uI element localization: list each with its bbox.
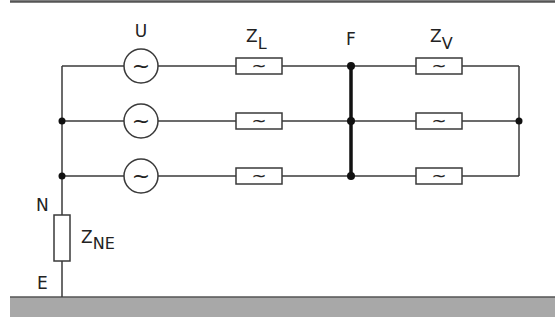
junction-dot: [516, 118, 523, 125]
line-impedance-3: ~: [236, 165, 282, 186]
load-impedance-label: ZV: [430, 26, 453, 53]
junction-dot: [347, 117, 355, 125]
earth-ground-plane: [10, 297, 555, 317]
ac-impedance-icon: ~: [431, 165, 446, 186]
voltage-source-3: ~: [124, 159, 158, 193]
ac-source-icon: ~: [132, 53, 150, 78]
three-phase-fault-circuit-diagram: ~ ~ ~ ~ ~ ~ ~ ~ ~ U ZL: [0, 0, 555, 317]
fault-point-label: F: [346, 29, 356, 49]
load-impedance-1: ~: [416, 55, 462, 76]
ac-impedance-icon: ~: [251, 110, 266, 131]
line-impedance-1: ~: [236, 55, 282, 76]
neutral-earth-impedance-label: ZNE: [81, 227, 115, 253]
line-impedance-2: ~: [236, 110, 282, 131]
junction-dot: [347, 172, 355, 180]
ac-impedance-icon: ~: [431, 55, 446, 76]
earth-label: E: [37, 273, 48, 293]
junction-dot: [59, 173, 66, 180]
junction-dot: [59, 118, 66, 125]
neutral-earth-impedance: [54, 215, 70, 261]
ac-source-icon: ~: [132, 163, 150, 188]
ac-impedance-icon: ~: [251, 165, 266, 186]
source-label: U: [135, 21, 147, 41]
voltage-source-2: ~: [124, 104, 158, 138]
junction-dot: [347, 62, 355, 70]
ac-impedance-icon: ~: [251, 55, 266, 76]
voltage-source-1: ~: [124, 49, 158, 83]
ac-source-icon: ~: [132, 108, 150, 133]
load-impedance-3: ~: [416, 165, 462, 186]
ac-impedance-icon: ~: [431, 110, 446, 131]
neutral-label: N: [36, 195, 49, 215]
load-impedance-2: ~: [416, 110, 462, 131]
line-impedance-label: ZL: [246, 26, 267, 53]
